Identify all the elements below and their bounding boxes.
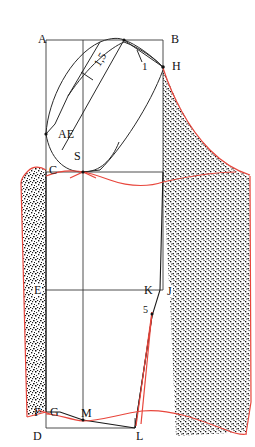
label-5: 5 [143,305,148,315]
red-chest-curve-left [46,171,163,186]
polyline-cap-left [46,42,100,134]
construction-lines [46,40,163,428]
label-B: B [171,33,179,45]
curve-H-to-S [100,70,163,170]
label-K: K [144,284,153,296]
red-underarm-seam-2 [141,312,152,424]
red-underarm-seam [136,312,152,426]
marker-S [81,170,84,173]
label-M: M [81,407,92,419]
label-AE: AE [58,128,74,140]
pattern-drawing-canvas: A B H AE S C E K J 5 F G M D L 1,5 1 [0,0,255,447]
marker-5 [151,313,154,316]
marker-H [161,65,165,69]
marker-apex [122,38,125,41]
lower-outline [46,172,163,428]
right-fabric-panel [163,68,250,436]
label-E: E [33,284,42,296]
label-A: A [38,33,47,45]
label-L: L [136,430,143,442]
label-H: H [172,60,181,72]
pattern-vector-layer [0,0,255,447]
line-right-edge-lower [135,172,163,428]
label-S: S [74,150,81,162]
label-C: C [49,164,57,176]
label-D: D [33,430,42,442]
label-G: G [50,406,59,418]
curve-AE-apex [46,38,124,134]
label-F: F [34,406,41,418]
label-J: J [166,285,173,297]
chord-arc-left [68,42,124,96]
dimension-1: 1 [142,60,148,72]
marker-AE [44,132,47,135]
